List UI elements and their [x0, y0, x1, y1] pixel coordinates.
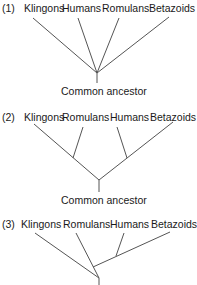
tree-2-branches — [34, 122, 173, 192]
tree-branches — [0, 0, 197, 285]
tree-3-branches — [35, 232, 170, 285]
tree-1-branches — [33, 17, 169, 83]
